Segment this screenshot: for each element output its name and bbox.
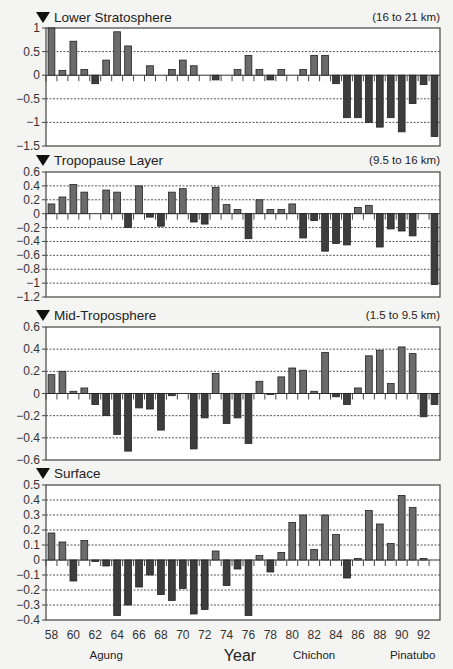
bar-75 bbox=[234, 70, 241, 76]
panel-title: Surface bbox=[54, 466, 101, 481]
bar-82 bbox=[311, 214, 318, 221]
bar-62 bbox=[92, 75, 99, 83]
bar-76 bbox=[245, 560, 252, 616]
bar-73 bbox=[212, 551, 219, 560]
bar-83 bbox=[322, 214, 329, 252]
bar-91 bbox=[409, 214, 416, 236]
bar-90 bbox=[398, 214, 405, 231]
x-tick-label: 58 bbox=[45, 628, 59, 642]
bar-65 bbox=[125, 46, 132, 75]
y-tick-label: 0.2 bbox=[23, 523, 40, 537]
y-tick-label: −1.2 bbox=[16, 290, 40, 304]
bar-72 bbox=[201, 394, 208, 418]
bar-85 bbox=[344, 214, 351, 245]
bar-84 bbox=[333, 394, 340, 397]
bar-67 bbox=[147, 66, 154, 75]
x-tick-label: 82 bbox=[307, 628, 321, 642]
bar-71 bbox=[190, 66, 197, 75]
bar-86 bbox=[355, 75, 362, 117]
bar-66 bbox=[136, 560, 143, 587]
bar-61 bbox=[81, 541, 88, 561]
bar-88 bbox=[376, 75, 383, 127]
bar-69 bbox=[168, 394, 175, 396]
bar-61 bbox=[81, 70, 88, 76]
x-axis: 586062646668707274767880828486889092Year… bbox=[45, 628, 436, 664]
bar-73 bbox=[212, 187, 219, 213]
y-tick-label: −1 bbox=[26, 115, 40, 129]
y-tick-label: 0.4 bbox=[23, 179, 40, 193]
bar-70 bbox=[179, 60, 186, 75]
bar-65 bbox=[125, 394, 132, 452]
bar-75 bbox=[234, 560, 241, 569]
bar-86 bbox=[355, 559, 362, 561]
bar-60 bbox=[70, 391, 77, 393]
y-tick-label: −0.5 bbox=[16, 92, 40, 106]
bar-82 bbox=[311, 391, 318, 393]
x-tick-label: 64 bbox=[110, 628, 124, 642]
bar-84 bbox=[333, 214, 340, 244]
bar-77 bbox=[256, 381, 263, 393]
x-tick-label: 86 bbox=[351, 628, 365, 642]
y-tick-label: −0.2 bbox=[16, 583, 40, 597]
bar-64 bbox=[114, 394, 121, 435]
y-tick-label: 0.4 bbox=[23, 493, 40, 507]
bar-84 bbox=[333, 75, 340, 83]
bar-83 bbox=[322, 352, 329, 393]
bar-81 bbox=[300, 214, 307, 238]
bar-90 bbox=[398, 75, 405, 132]
bar-92 bbox=[420, 559, 427, 561]
x-tick-label: 78 bbox=[264, 628, 278, 642]
temperature-anomaly-chart: Lower Stratosphere(16 to 21 km)10.50−0.5… bbox=[0, 0, 453, 669]
bar-65 bbox=[125, 560, 132, 605]
bar-77 bbox=[256, 200, 263, 214]
bar-79 bbox=[278, 210, 285, 214]
bar-60 bbox=[70, 560, 77, 581]
x-tick-label: 66 bbox=[132, 628, 146, 642]
bar-60 bbox=[70, 41, 77, 75]
bar-79 bbox=[278, 377, 285, 394]
y-tick-label: −0.4 bbox=[16, 613, 40, 627]
bar-81 bbox=[300, 70, 307, 76]
y-tick-label: 0.5 bbox=[23, 478, 40, 492]
bar-71 bbox=[190, 214, 197, 222]
bar-81 bbox=[300, 370, 307, 393]
bar-80 bbox=[289, 523, 296, 561]
bar-76 bbox=[245, 394, 252, 444]
y-tick-label: 0.2 bbox=[23, 193, 40, 207]
bar-71 bbox=[190, 560, 197, 614]
bar-69 bbox=[168, 192, 175, 214]
bar-88 bbox=[376, 524, 383, 560]
bar-73 bbox=[212, 75, 219, 80]
bar-76 bbox=[245, 214, 252, 239]
bar-83 bbox=[322, 55, 329, 75]
y-tick-label: 0 bbox=[33, 207, 40, 221]
y-tick-label: 0.6 bbox=[23, 320, 40, 334]
y-tick-label: 0.3 bbox=[23, 508, 40, 522]
bar-66 bbox=[136, 186, 143, 214]
y-tick-label: −1 bbox=[26, 276, 40, 290]
y-tick-label: 0 bbox=[33, 387, 40, 401]
bar-90 bbox=[398, 347, 405, 394]
bar-93 bbox=[431, 75, 438, 136]
y-tick-label: −0.3 bbox=[16, 598, 40, 612]
y-tick-label: −0.4 bbox=[16, 431, 40, 445]
bar-93 bbox=[431, 214, 438, 285]
x-tick-label: 92 bbox=[417, 628, 431, 642]
bar-62 bbox=[92, 560, 99, 562]
bar-58 bbox=[48, 204, 55, 214]
bar-68 bbox=[158, 560, 165, 595]
bar-67 bbox=[147, 214, 154, 217]
bar-79 bbox=[278, 553, 285, 561]
bar-62 bbox=[92, 394, 99, 405]
panel-range-label: (9.5 to 16 km) bbox=[369, 154, 440, 166]
bar-64 bbox=[114, 560, 121, 616]
bar-89 bbox=[387, 214, 394, 229]
bar-90 bbox=[398, 496, 405, 561]
bar-67 bbox=[147, 394, 154, 410]
panel-title: Tropopause Layer bbox=[54, 153, 164, 168]
panel-title: Mid-Troposphere bbox=[54, 308, 156, 323]
bar-60 bbox=[70, 185, 77, 214]
x-tick-label: 60 bbox=[67, 628, 81, 642]
bar-82 bbox=[311, 55, 318, 75]
bar-91 bbox=[409, 75, 416, 103]
